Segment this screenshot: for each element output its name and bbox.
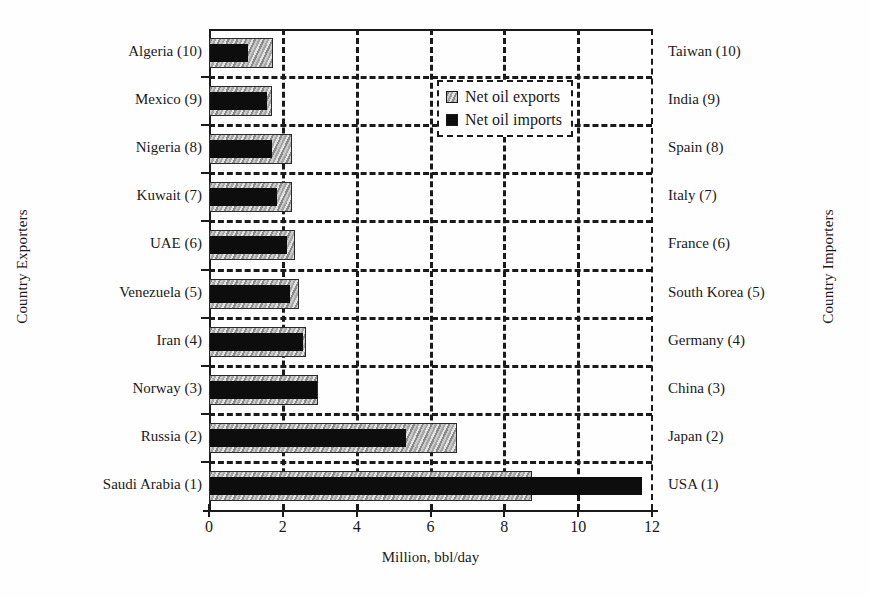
x-axis-tick-label: 6	[411, 518, 451, 536]
exporter-label: Mexico (9)	[135, 91, 202, 108]
exporter-label: Nigeria (8)	[136, 139, 202, 156]
x-axis-tick	[503, 504, 505, 517]
x-axis-tick-label: 0	[189, 518, 229, 536]
exporter-label: Iran (4)	[157, 332, 202, 349]
x-axis-tick	[430, 504, 432, 517]
legend-item-imports: Net oil imports	[446, 108, 562, 131]
bar-net-oil-imports	[210, 44, 248, 62]
x-axis-tick	[651, 504, 653, 517]
y-axis-tick	[201, 269, 210, 271]
importer-label: USA (1)	[668, 476, 718, 493]
horizontal-gridline	[209, 365, 652, 368]
x-axis-title: Million, bbl/day	[209, 549, 652, 566]
y-axis-tick	[201, 220, 210, 222]
legend-label-exports: Net oil exports	[465, 88, 560, 106]
y-axis-left-title: Country Exporters	[14, 187, 31, 347]
x-axis-tick	[282, 504, 284, 517]
x-axis-tick-label: 10	[558, 518, 598, 536]
horizontal-gridline	[209, 172, 652, 175]
importer-label: Italy (7)	[668, 187, 717, 204]
x-axis-tick	[577, 504, 579, 517]
importer-label: Spain (8)	[668, 139, 723, 156]
exporter-label: Norway (3)	[132, 380, 202, 397]
bar-net-oil-imports	[210, 333, 303, 351]
exporter-label: Russia (2)	[141, 428, 202, 445]
bar-net-oil-imports	[210, 429, 406, 447]
y-axis-tick	[201, 317, 210, 319]
y-axis-tick	[201, 172, 210, 174]
horizontal-gridline	[209, 124, 652, 127]
x-axis-tick-label: 8	[484, 518, 524, 536]
importer-label: Germany (4)	[668, 332, 745, 349]
exporter-label: Algeria (10)	[128, 43, 202, 60]
legend-item-exports: Net oil exports	[446, 85, 562, 108]
y-axis-tick	[201, 461, 210, 463]
bar-net-oil-imports	[210, 188, 277, 206]
bar-row	[209, 230, 652, 260]
importer-label: Japan (2)	[668, 428, 723, 445]
importer-label: France (6)	[668, 235, 730, 252]
horizontal-gridline	[209, 413, 652, 416]
bar-net-oil-imports	[210, 381, 317, 399]
x-axis-tick-label: 4	[337, 518, 377, 536]
bar-row	[209, 279, 652, 309]
bar-net-oil-imports	[210, 140, 272, 158]
horizontal-gridline	[209, 220, 652, 223]
x-axis-tick-label: 12	[632, 518, 672, 536]
y-axis-right-title: Country Importers	[820, 187, 837, 347]
bar-row	[209, 86, 652, 116]
exporter-label: Venezuela (5)	[119, 284, 202, 301]
legend-swatch-imports-icon	[446, 114, 458, 126]
exporter-label: Kuwait (7)	[137, 187, 202, 204]
horizontal-gridline	[209, 76, 652, 79]
bar-row	[209, 134, 652, 164]
x-axis-tick-label: 2	[263, 518, 303, 536]
exporter-label: UAE (6)	[150, 235, 202, 252]
importer-label: South Korea (5)	[668, 284, 765, 301]
oil-trade-bar-chart: Country Exporters Country Importers 0246…	[0, 0, 869, 598]
bar-row	[209, 38, 652, 68]
horizontal-gridline	[209, 269, 652, 272]
bar-net-oil-imports	[210, 477, 642, 495]
legend-swatch-exports-icon	[446, 91, 458, 103]
x-axis-tick	[356, 504, 358, 517]
horizontal-gridline	[209, 461, 652, 464]
bar-row	[209, 471, 652, 501]
y-axis-tick	[201, 413, 210, 415]
bar-row	[209, 423, 652, 453]
bar-net-oil-imports	[210, 92, 267, 110]
bar-net-oil-imports	[210, 285, 290, 303]
importer-label: China (3)	[668, 380, 725, 397]
bar-row	[209, 375, 652, 405]
legend-label-imports: Net oil imports	[465, 111, 562, 129]
importer-label: Taiwan (10)	[668, 43, 741, 60]
y-axis-tick	[201, 365, 210, 367]
chart-legend: Net oil exports Net oil imports	[437, 80, 573, 137]
x-axis-tick	[208, 504, 210, 517]
importer-label: India (9)	[668, 91, 720, 108]
y-axis-tick	[201, 76, 210, 78]
exporter-label: Saudi Arabia (1)	[103, 476, 202, 493]
y-axis-tick	[201, 124, 210, 126]
bar-row	[209, 327, 652, 357]
bar-net-oil-imports	[210, 236, 287, 254]
bar-row	[209, 182, 652, 212]
horizontal-gridline	[209, 317, 652, 320]
